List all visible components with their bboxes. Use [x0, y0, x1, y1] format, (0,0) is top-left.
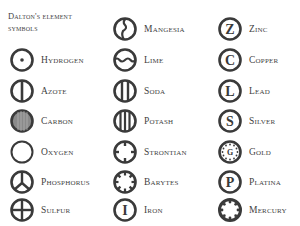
- phosphorus-icon: [9, 169, 35, 195]
- element-copper: C Copper: [217, 47, 278, 73]
- svg-text:I: I: [122, 203, 127, 218]
- mercury-icon: [217, 197, 243, 223]
- element-label: Zinc: [249, 24, 268, 34]
- element-iron: I Iron: [112, 197, 163, 223]
- element-label: Sulfur: [41, 205, 70, 215]
- element-hydrogen: Hydrogen: [9, 47, 84, 73]
- gold-icon: G: [217, 139, 243, 165]
- element-sulfur: Sulfur: [9, 197, 70, 223]
- element-phosphorus: Phosphorus: [9, 169, 90, 195]
- element-label: Soda: [144, 86, 165, 96]
- element-label: Carbon: [41, 116, 73, 126]
- svg-text:Z: Z: [225, 22, 234, 37]
- element-potash: Potash: [112, 108, 173, 134]
- element-label: Barytes: [144, 177, 179, 187]
- element-label: Azote: [41, 86, 67, 96]
- element-mangesia: Mangesia: [112, 16, 185, 42]
- element-platina: P Platina: [217, 169, 281, 195]
- element-barytes: Barytes: [112, 169, 179, 195]
- element-azote: Azote: [9, 78, 67, 104]
- barytes-icon: [112, 169, 138, 195]
- element-mercury: Mercury: [217, 197, 287, 223]
- element-carbon: Carbon: [9, 108, 73, 134]
- element-label: Iron: [144, 205, 163, 215]
- element-label: Silver: [249, 116, 275, 126]
- oxygen-icon: [9, 139, 35, 165]
- page-title: Dalton's element symbols: [8, 10, 100, 34]
- svg-text:S: S: [226, 114, 234, 129]
- element-label: Potash: [144, 116, 173, 126]
- iron-icon: I: [112, 197, 138, 223]
- element-strontian: Strontian: [112, 139, 187, 165]
- element-oxygen: Oxygen: [9, 139, 74, 165]
- element-label: Mangesia: [144, 24, 185, 34]
- element-label: Gold: [249, 147, 271, 157]
- element-label: Lead: [249, 86, 270, 96]
- element-zinc: Z Zinc: [217, 16, 268, 42]
- silver-icon: S: [217, 108, 243, 134]
- element-label: Copper: [249, 55, 278, 65]
- element-label: Mercury: [249, 205, 287, 215]
- platina-icon: P: [217, 169, 243, 195]
- azote-icon: [9, 78, 35, 104]
- element-silver: S Silver: [217, 108, 275, 134]
- element-lead: L Lead: [217, 78, 270, 104]
- mangesia-icon: [112, 16, 138, 42]
- element-label: Platina: [249, 177, 281, 187]
- element-lime: Lime: [112, 47, 163, 73]
- element-gold: G Gold: [217, 139, 271, 165]
- lime-icon: [112, 47, 138, 73]
- svg-text:P: P: [226, 175, 235, 190]
- element-soda: Soda: [112, 78, 165, 104]
- element-label: Lime: [144, 55, 163, 65]
- sulfur-icon: [9, 197, 35, 223]
- strontian-icon: [112, 139, 138, 165]
- svg-text:C: C: [225, 53, 235, 68]
- lead-icon: L: [217, 78, 243, 104]
- element-label: Hydrogen: [41, 55, 84, 65]
- carbon-icon: [9, 108, 35, 134]
- soda-icon: [112, 78, 138, 104]
- potash-icon: [112, 108, 138, 134]
- copper-icon: C: [217, 47, 243, 73]
- zinc-icon: Z: [217, 16, 243, 42]
- svg-text:L: L: [225, 84, 234, 99]
- element-label: Oxygen: [41, 147, 74, 157]
- hydrogen-icon: [9, 47, 35, 73]
- element-label: Strontian: [144, 147, 187, 157]
- element-label: Phosphorus: [41, 177, 90, 187]
- svg-text:G: G: [227, 148, 233, 157]
